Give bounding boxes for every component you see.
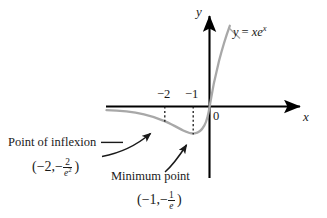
equation-equals: = <box>242 25 249 39</box>
leader-line-inflexion <box>102 134 151 157</box>
inflexion-denominator-exponent: 2 <box>68 166 71 173</box>
leader-line-minimum <box>165 145 187 172</box>
x-tick-label-minus-1: −1 <box>185 88 198 101</box>
equation-exponent: x <box>263 23 267 33</box>
curve-y-equals-x-e-to-the-x <box>107 26 230 134</box>
x-tick-label-minus-2: −2 <box>157 88 170 101</box>
minimum-coord-fraction: 1e <box>168 191 175 212</box>
origin-label: 0 <box>213 110 219 123</box>
inflexion-annotation-coords: (−2,−2e2) <box>32 158 79 179</box>
graph-canvas <box>0 0 327 218</box>
y-axis-label: y <box>196 5 202 18</box>
minimum-denominator-base: e <box>169 201 173 211</box>
equation-y: y <box>233 25 239 39</box>
inflexion-annotation-title: Point of inflexion <box>8 136 96 149</box>
minimum-annotation-coords: (−1,−1e) <box>137 191 182 212</box>
minimum-fraction-denominator: e <box>168 202 174 211</box>
inflexion-coord-close: ) <box>74 159 79 174</box>
inflexion-fraction-denominator: e2 <box>63 169 72 178</box>
minimum-coord-open: (−1,− <box>137 192 168 207</box>
minimum-annotation-title: Minimum point <box>111 170 190 183</box>
x-axis-label: x <box>303 110 309 123</box>
inflexion-coord-fraction: 2e2 <box>63 158 72 179</box>
minimum-fraction-numerator: 1 <box>168 191 175 200</box>
inflexion-coord-open: (−2,− <box>32 159 63 174</box>
equation-function: xe <box>252 25 263 39</box>
minimum-coord-close: ) <box>177 192 182 207</box>
curve-equation-label: y=xex <box>233 26 267 39</box>
graph-figure: y x 0 −2 −1 y=xex Point of inflexion (−2… <box>0 0 327 218</box>
